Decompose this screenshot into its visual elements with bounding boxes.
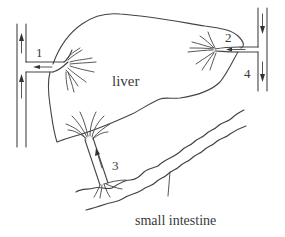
diagram-canvas: 1 2 3 4 liver small intestine — [0, 0, 285, 237]
small-intestine — [76, 110, 246, 210]
arrow-down-icon — [260, 74, 265, 82]
arrow-up-icon — [19, 33, 24, 41]
label-small-intestine: small intestine — [135, 213, 216, 228]
vessel-2 — [188, 32, 258, 70]
label-vessel-3: 3 — [112, 158, 119, 173]
arrow-up-icon — [19, 74, 24, 82]
right-vertical-vessel — [258, 8, 267, 91]
label-vessel-2: 2 — [225, 30, 232, 45]
left-vertical-vessel — [17, 24, 26, 147]
label-vessel-1: 1 — [36, 45, 43, 60]
arrow-left-icon — [33, 65, 40, 69]
leader-line — [168, 172, 170, 196]
label-vessel-4: 4 — [244, 66, 251, 81]
arrow-left-icon — [226, 48, 232, 52]
arrow-up-icon — [95, 148, 100, 156]
arrow-down-icon — [260, 26, 265, 34]
label-liver: liver — [112, 73, 140, 89]
